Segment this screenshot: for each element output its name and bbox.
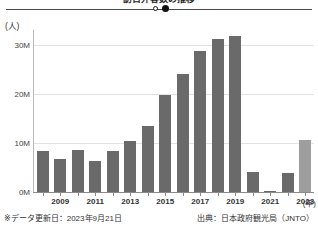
x-axis-tick-label: 2017: [191, 197, 209, 206]
bar-slot[interactable]: [54, 30, 66, 192]
bar-slot[interactable]: [229, 30, 241, 192]
bar[interactable]: [142, 126, 154, 192]
bar[interactable]: [212, 39, 224, 192]
x-axis-tick: [165, 193, 166, 196]
x-axis-tick: [148, 193, 149, 196]
bar[interactable]: [247, 172, 259, 192]
bar-slot[interactable]: [72, 30, 84, 192]
bar-slot[interactable]: [89, 30, 101, 192]
x-axis-tick-label: 2019: [226, 197, 244, 206]
bar-slot[interactable]: [124, 30, 136, 192]
slider-handle-open-icon[interactable]: [153, 6, 158, 11]
x-axis-tick: [183, 193, 184, 196]
bar-slot[interactable]: [282, 30, 294, 192]
bar[interactable]: [299, 140, 311, 192]
x-axis-tick: [95, 193, 96, 196]
x-axis-tick-label: 2013: [121, 197, 139, 206]
x-axis-tick-label: 2009: [51, 197, 69, 206]
bar-slot[interactable]: [247, 30, 259, 192]
x-axis-tick: [305, 193, 306, 196]
x-axis-tick: [218, 193, 219, 196]
bar[interactable]: [107, 151, 119, 192]
bar-slot[interactable]: [212, 30, 224, 192]
bar-slot[interactable]: [299, 30, 311, 192]
x-axis-tick: [60, 193, 61, 196]
bar-slot[interactable]: [194, 30, 206, 192]
bar[interactable]: [54, 159, 66, 192]
bar[interactable]: [229, 36, 241, 193]
bar-slot[interactable]: [142, 30, 154, 192]
x-axis-tick: [270, 193, 271, 196]
bar[interactable]: [89, 161, 101, 192]
x-axis-tick: [113, 193, 114, 196]
slider-handle-filled-icon[interactable]: [162, 5, 169, 12]
y-axis-tick-label: 30M: [0, 40, 30, 49]
x-axis-tick-label: 2015: [156, 197, 174, 206]
y-axis-tick-label: 20M: [0, 89, 30, 98]
data-source-note: 出典：日本政府観光局（JNTO）: [197, 212, 314, 223]
bar[interactable]: [264, 191, 276, 192]
x-axis-tick-label: 2011: [87, 197, 104, 206]
bar[interactable]: [124, 141, 136, 192]
bar[interactable]: [177, 74, 189, 192]
y-axis-tick-label: 10M: [0, 138, 30, 147]
x-axis-tick: [253, 193, 254, 196]
x-axis-tick: [43, 193, 44, 196]
bar-slot[interactable]: [159, 30, 171, 192]
x-axis-tick: [130, 193, 131, 196]
plot-area: [34, 30, 314, 192]
data-update-note: ※データ更新日：2023年9月21日: [4, 212, 122, 223]
bar-slot[interactable]: [264, 30, 276, 192]
bar-slot[interactable]: [177, 30, 189, 192]
bar-slot[interactable]: [37, 30, 49, 192]
bar[interactable]: [282, 173, 294, 192]
y-axis-unit-label: (人): [5, 19, 19, 31]
y-axis-tick-label: 0M: [0, 188, 30, 197]
x-axis-line: [33, 192, 314, 193]
x-axis-tick: [288, 193, 289, 196]
x-axis-unit-label: (年): [303, 197, 316, 208]
x-axis-tick: [235, 193, 236, 196]
slider-track[interactable]: [6, 9, 312, 10]
bar[interactable]: [159, 95, 171, 192]
footer: ※データ更新日：2023年9月21日 出典：日本政府観光局（JNTO）: [0, 210, 318, 231]
x-axis-tick: [200, 193, 201, 196]
bar-slot[interactable]: [107, 30, 119, 192]
timeline-slider[interactable]: [6, 5, 312, 15]
bar[interactable]: [37, 151, 49, 192]
bar[interactable]: [194, 51, 206, 192]
x-axis-tick: [78, 193, 79, 196]
x-axis-tick-label: 2021: [261, 197, 279, 206]
bar-chart: (人) 0M10M20M30M 200920112013201520172019…: [0, 15, 318, 208]
bar[interactable]: [72, 150, 84, 192]
